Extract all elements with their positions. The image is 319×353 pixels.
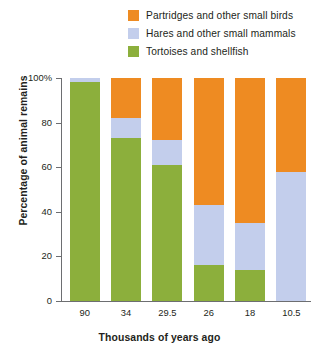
bar-group <box>194 78 224 301</box>
bar-stack <box>111 78 141 301</box>
x-tick-label: 10.5 <box>261 307 319 318</box>
bar-segment <box>276 172 306 301</box>
bar-segment <box>194 78 224 205</box>
y-tick-mark <box>56 301 61 302</box>
bar-segment <box>152 140 182 165</box>
y-axis-title: Percentage of animal remains <box>18 51 29 251</box>
bar-group <box>235 78 265 301</box>
bar-segment <box>111 78 141 118</box>
x-axis-line <box>61 301 311 302</box>
bar-segment <box>276 78 306 172</box>
bar-stack <box>70 78 100 301</box>
bar-segment <box>194 265 224 301</box>
bar-stack <box>152 78 182 301</box>
y-tick-mark <box>56 167 61 168</box>
legend-swatch-hares <box>128 28 139 39</box>
y-tick-label: 0 <box>0 295 52 306</box>
bar-group <box>111 78 141 301</box>
bar-group <box>70 78 100 301</box>
y-tick-mark <box>56 212 61 213</box>
bar-segment <box>152 165 182 301</box>
bar-segment <box>111 118 141 138</box>
legend-item-tortoises: Tortoises and shellfish <box>128 44 296 59</box>
y-tick-mark <box>56 123 61 124</box>
legend-label-tortoises: Tortoises and shellfish <box>146 46 249 57</box>
plot-area <box>62 78 310 301</box>
bar-stack <box>276 78 306 301</box>
bar-segment <box>194 205 224 265</box>
bar-group <box>276 78 306 301</box>
bar-group <box>152 78 182 301</box>
legend-label-hares: Hares and other small mammals <box>146 28 296 39</box>
bar-stack <box>194 78 224 301</box>
bar-segment <box>235 223 265 270</box>
x-axis-title: Thousands of years ago <box>0 332 319 343</box>
legend-swatch-tortoises <box>128 46 139 57</box>
y-tick-mark <box>56 78 61 79</box>
bar-segment <box>152 78 182 140</box>
bar-segment <box>111 138 141 301</box>
bar-segment <box>70 82 100 301</box>
bar-stack <box>235 78 265 301</box>
y-tick-mark <box>56 256 61 257</box>
chart-legend: Partridges and other small birds Hares a… <box>128 8 296 59</box>
legend-item-partridges: Partridges and other small birds <box>128 8 296 23</box>
bar-segment <box>235 78 265 223</box>
legend-item-hares: Hares and other small mammals <box>128 26 296 41</box>
legend-label-partridges: Partridges and other small birds <box>146 10 293 21</box>
legend-swatch-partridges <box>128 10 139 21</box>
bar-segment <box>235 270 265 301</box>
stacked-bar-chart: Partridges and other small birds Hares a… <box>0 0 319 353</box>
y-tick-label: 20 <box>0 250 52 261</box>
